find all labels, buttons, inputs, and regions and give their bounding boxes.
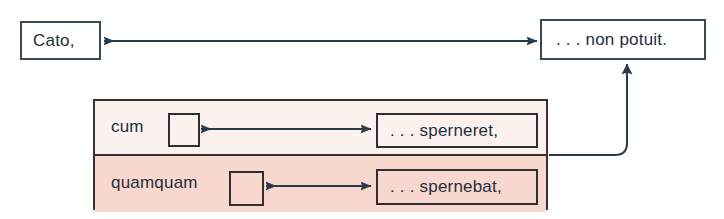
diagram-canvas: Cato, . . . non potuit. cum . . . sperne… — [0, 0, 724, 219]
spernebat-label: . . . spernebat, — [390, 177, 502, 197]
cato-box: Cato, — [20, 21, 101, 60]
quamquam-gap-box — [229, 171, 264, 206]
non-potuit-box: . . . non potuit. — [540, 19, 706, 60]
quamquam-row: quamquam . . . spernebat, — [95, 156, 546, 212]
cum-row: cum . . . sperneret, — [95, 101, 546, 156]
sperneret-box: . . . sperneret, — [376, 113, 538, 148]
sperneret-label: . . . sperneret, — [390, 121, 498, 141]
cum-gap-box — [168, 113, 200, 147]
block-to-potuit-arrow — [549, 64, 627, 155]
cato-label: Cato, — [33, 31, 75, 51]
non-potuit-label: . . . non potuit. — [556, 30, 667, 50]
subordinate-clause-block: cum . . . sperneret, quamquam . . . sper… — [93, 99, 548, 210]
cum-conjunction-label: cum — [111, 117, 144, 137]
quamquam-conjunction-label: quamquam — [111, 173, 198, 193]
spernebat-box: . . . spernebat, — [376, 169, 538, 205]
